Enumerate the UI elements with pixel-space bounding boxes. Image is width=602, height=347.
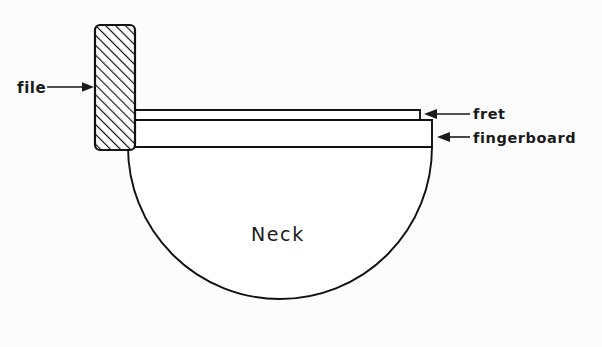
fret-leader bbox=[424, 109, 470, 119]
fingerboard-arrow-head bbox=[437, 132, 450, 142]
file-arrow-head bbox=[82, 82, 94, 92]
fret-shape bbox=[135, 110, 420, 120]
fingerboard-leader bbox=[437, 132, 470, 142]
fingerboard-label: fingerboard bbox=[473, 130, 576, 146]
fingerboard-shape bbox=[135, 120, 432, 147]
neck-label: Neck bbox=[251, 223, 305, 245]
file-label: file bbox=[17, 79, 46, 97]
fret-label: fret bbox=[473, 106, 506, 122]
fret-leveling-diagram: file fret fingerboard Neck bbox=[0, 0, 602, 347]
fingerboard-outline bbox=[135, 120, 432, 147]
file-shape bbox=[95, 25, 135, 150]
file-leader bbox=[47, 82, 94, 92]
fret-arrow-head bbox=[424, 109, 437, 119]
fret-outline bbox=[135, 110, 420, 120]
file-block bbox=[95, 25, 135, 150]
diagram-canvas: file fret fingerboard Neck bbox=[0, 0, 602, 347]
